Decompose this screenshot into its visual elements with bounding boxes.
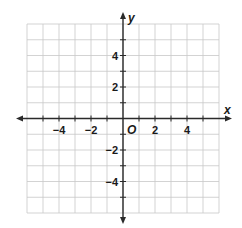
coordinate-plane: −4−22442−2−4 x y O xyxy=(0,0,242,228)
x-tick-label: 4 xyxy=(184,124,191,136)
x-axis-arrow-left-icon xyxy=(16,116,23,122)
x-tick-label: −4 xyxy=(53,124,66,136)
y-axis-arrow-up-icon xyxy=(120,12,126,19)
y-axis-label: y xyxy=(127,11,136,25)
y-tick-label: 4 xyxy=(112,50,119,62)
x-axis-label: x xyxy=(223,103,232,117)
y-axis-arrow-down-icon xyxy=(120,217,126,224)
y-tick-label: 2 xyxy=(112,81,118,93)
axes xyxy=(16,12,232,224)
origin-label: O xyxy=(127,123,137,137)
y-tick-label: −4 xyxy=(105,176,118,188)
x-tick-label: 2 xyxy=(152,124,158,136)
x-tick-label: −2 xyxy=(85,124,98,136)
y-tick-label: −2 xyxy=(105,144,118,156)
